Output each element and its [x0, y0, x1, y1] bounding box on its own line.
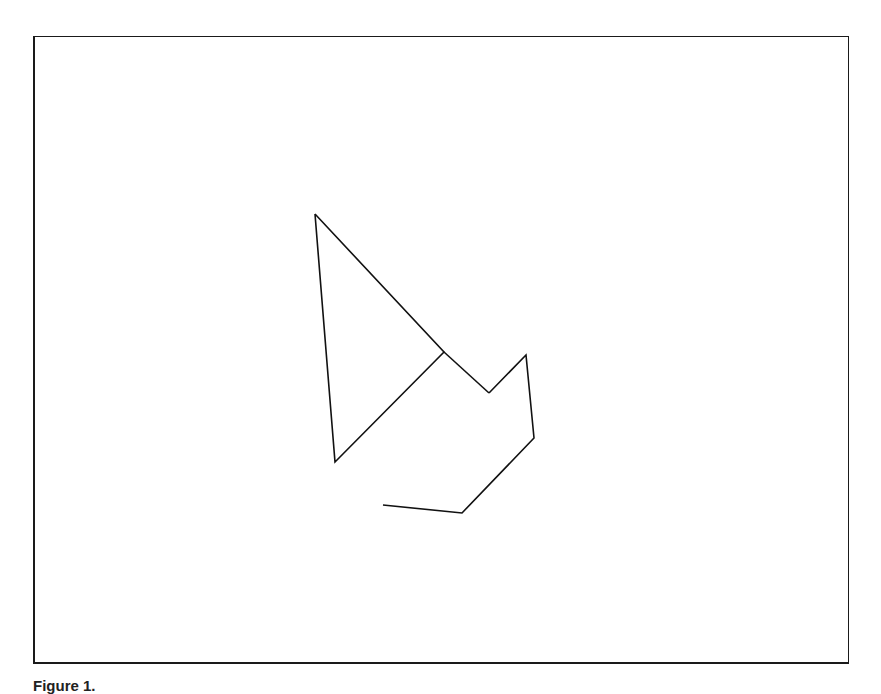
triangle-shape [315, 214, 444, 462]
figure-caption: Figure 1. [33, 677, 96, 694]
quadrilateral-shape [383, 355, 534, 513]
caption-label: Figure 1. [33, 677, 96, 694]
connecting-edge [444, 352, 489, 393]
